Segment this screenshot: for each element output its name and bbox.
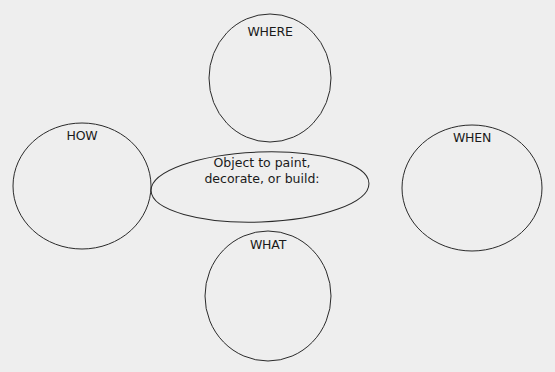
center-object-label: Object to paint, decorate, or build: xyxy=(162,155,362,187)
where-label: WHERE xyxy=(247,24,292,39)
center-label-line-2: decorate, or build: xyxy=(162,171,362,187)
what-label: WHAT xyxy=(250,237,286,252)
center-label-line-1: Object to paint, xyxy=(162,155,362,171)
concept-web-page: WHERE HOW WHEN WHAT Object to paint, dec… xyxy=(0,0,555,372)
when-label: WHEN xyxy=(453,130,491,145)
how-label: HOW xyxy=(67,128,98,143)
